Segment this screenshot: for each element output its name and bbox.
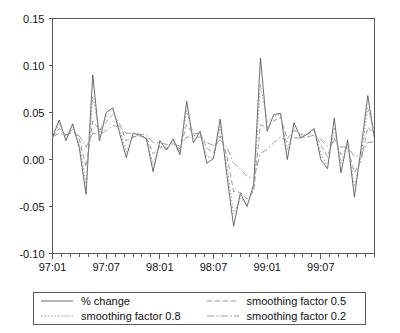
data-series-group [53,58,375,226]
series-line--change [53,58,375,226]
legend-entry[interactable]: % change [34,293,200,309]
x-axis-tick-labels: 97:0197:0798:0198:0799:0199:07 [39,261,335,273]
legend-entry-label: smoothing factor 0.5 [247,295,347,307]
x-tick-label: 98:07 [200,261,228,273]
y-tick-label: 0.05 [23,107,44,119]
x-tick-label: 99:01 [253,261,281,273]
y-tick-label: -0.05 [19,201,44,213]
chart-figure: 0.150.100.050.00-0.05-0.10 97:0197:0798:… [0,0,400,333]
y-tick-label: -0.10 [19,248,44,260]
x-tick-label: 97:01 [39,261,67,273]
y-axis-tick-labels: 0.150.100.050.00-0.05-0.10 [19,13,44,260]
legend-entry[interactable]: smoothing factor 0.8 [34,309,200,325]
y-tick-label: 0.10 [23,60,44,72]
legend-entry-label: % change [81,295,130,307]
x-tick-label: 98:01 [146,261,174,273]
y-tick-label: 0.00 [23,154,44,166]
legend-entry[interactable]: smoothing factor 0.2 [200,309,366,325]
legend-grid: % changesmoothing factor 0.5smoothing fa… [34,293,365,324]
x-tick-label: 97:07 [92,261,120,273]
legend-entry-label: smoothing factor 0.8 [81,310,181,322]
axis-tick-marks [49,19,375,259]
line-chart-canvas: 0.150.100.050.00-0.05-0.10 97:0197:0798:… [0,0,400,333]
legend-line-sample-dashdot [206,311,240,321]
legend-line-sample-dotted [40,311,74,321]
legend-entry[interactable]: smoothing factor 0.5 [200,293,366,309]
chart-legend: % changesmoothing factor 0.5smoothing fa… [33,292,366,325]
x-tick-label: 99:07 [307,261,335,273]
legend-line-sample-solid [40,296,74,306]
legend-line-sample-dashed [206,296,240,306]
legend-entry-label: smoothing factor 0.2 [247,310,347,322]
y-tick-label: 0.15 [23,13,44,25]
series-line-smoothing-factor-0-8 [53,84,375,214]
